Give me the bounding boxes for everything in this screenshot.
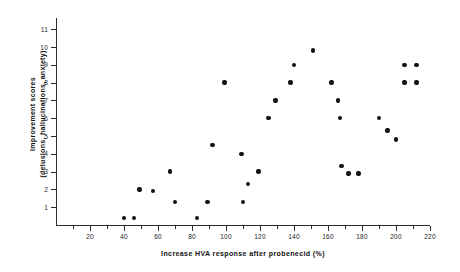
data-point xyxy=(122,216,126,220)
data-point xyxy=(402,63,406,67)
data-point xyxy=(336,98,340,102)
data-point xyxy=(241,200,245,204)
data-point xyxy=(329,80,333,84)
data-point xyxy=(339,164,343,168)
data-point xyxy=(266,116,270,120)
data-point xyxy=(288,80,292,84)
data-point xyxy=(377,116,381,120)
data-point xyxy=(137,187,141,191)
data-point xyxy=(311,48,315,52)
y-axis-title-line2: (delusions, hallucinations, anxiety) xyxy=(38,14,48,214)
data-point xyxy=(338,116,342,120)
data-point xyxy=(195,216,199,220)
data-point xyxy=(210,143,214,147)
data-point xyxy=(346,171,350,175)
scatter-plot-figure: 1234567891011 20406080100120140160180200… xyxy=(0,0,460,272)
y-axis-title-line1: Improvement scores xyxy=(29,77,36,151)
data-point xyxy=(402,80,406,84)
y-axis-title: Improvement scores (delusions, hallucina… xyxy=(28,14,48,214)
data-point xyxy=(414,80,418,84)
data-point xyxy=(256,169,260,173)
data-point xyxy=(273,98,277,102)
x-axis-title: Increase HVA response after probenecid (… xyxy=(56,250,430,257)
data-point xyxy=(132,216,136,220)
data-point xyxy=(394,137,398,141)
data-points-layer xyxy=(0,0,460,272)
data-point xyxy=(356,171,360,175)
data-point xyxy=(246,182,250,186)
data-point xyxy=(385,128,389,132)
data-point xyxy=(222,80,226,84)
data-point xyxy=(168,169,172,173)
data-point xyxy=(239,152,243,156)
data-point xyxy=(292,63,296,67)
data-point xyxy=(173,200,177,204)
data-point xyxy=(414,63,418,67)
data-point xyxy=(151,189,155,193)
data-point xyxy=(205,200,209,204)
